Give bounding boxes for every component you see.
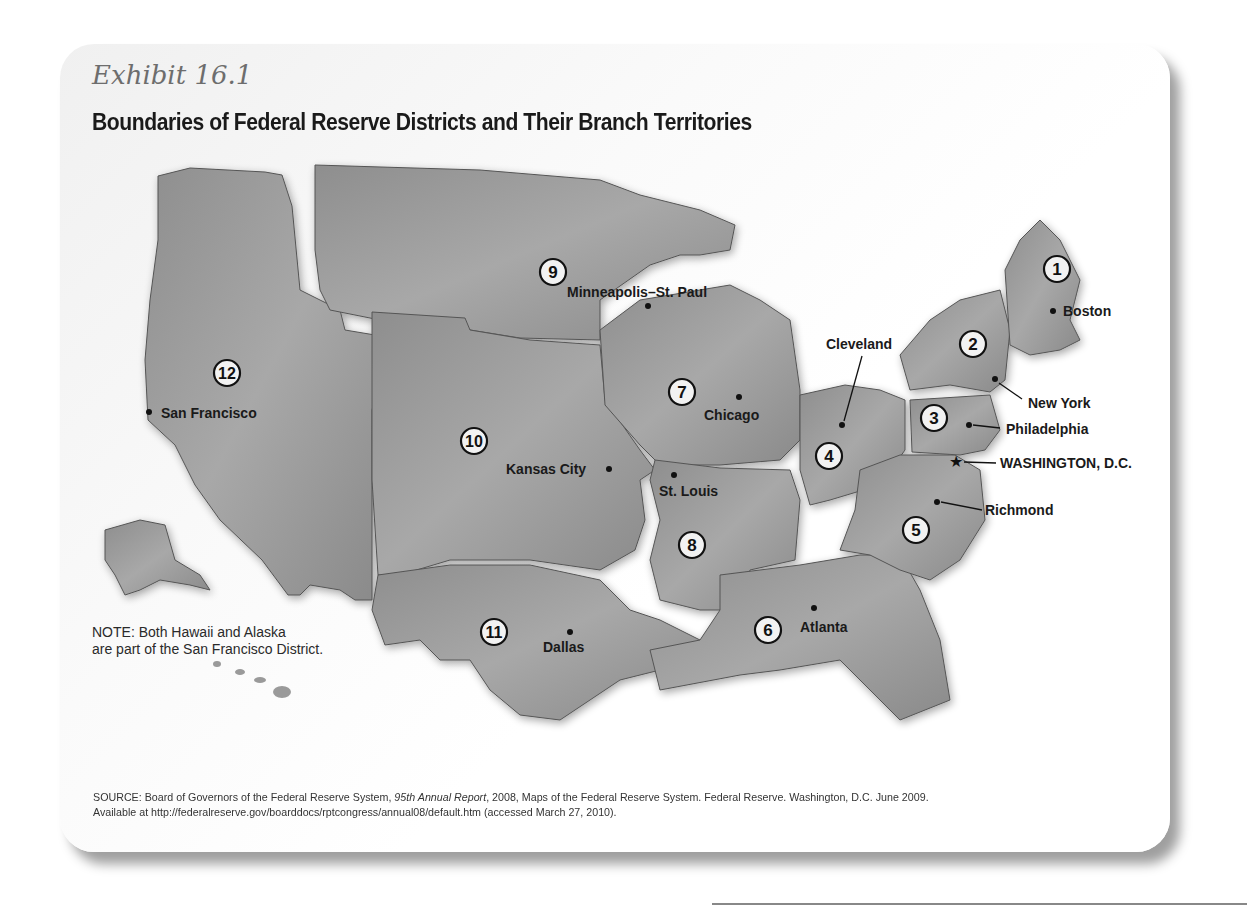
district-10-number: 10 [465,433,483,450]
note-line-2: are part of the San Francisco District. [92,641,323,658]
district-3-number: 3 [929,409,938,428]
label-richmond: Richmond [985,502,1053,518]
district-4-number: 4 [824,447,834,466]
district-1-number: 1 [1052,260,1061,279]
page-rule [712,903,1247,905]
alaska-region [105,520,210,595]
label-atlanta: Atlanta [800,619,848,635]
label-dallas: Dallas [543,639,584,655]
district-11-region [372,565,700,720]
label-minneapolis-st-paul: Minneapolis–St. Paul [567,284,707,300]
atlanta-dot [811,605,817,611]
label-san-francisco: San Francisco [161,405,257,421]
capital-star-icon: ★ [949,453,963,470]
new-york-dot [992,376,998,382]
label-new-york: New York [1028,395,1091,411]
district-6-number: 6 [763,621,772,640]
district-11-number: 11 [486,624,503,641]
san-francisco-dot [146,409,152,415]
minneapolis-dot [645,303,651,309]
hawaii-region [213,661,291,698]
label-kansas-city: Kansas City [506,461,586,477]
district-7-number: 7 [677,383,686,402]
dallas-dot [567,629,573,635]
district-8-number: 8 [687,536,696,555]
district-2-number: 2 [968,335,977,354]
cleveland-dot [839,422,845,428]
district-1-region [1005,220,1080,355]
label-boston: Boston [1063,303,1111,319]
federal-reserve-map: 1 2 3 4 5 6 7 8 9 10 11 12 ★ Boston [0,0,1247,907]
source-url-line: Available at http://federalreserve.gov/b… [93,805,929,820]
label-cleveland: Cleveland [826,336,892,352]
philadelphia-dot [966,422,972,428]
label-philadelphia: Philadelphia [1006,421,1089,437]
note-text: NOTE: Both Hawaii and Alaska are part of… [92,624,323,658]
label-chicago: Chicago [704,407,759,423]
source-citation: SOURCE: Board of Governors of the Federa… [93,790,929,820]
note-line-1: NOTE: Both Hawaii and Alaska [92,624,323,641]
district-12-number: 12 [218,365,236,382]
label-washington-dc: WASHINGTON, D.C. [1000,455,1132,471]
district-9-number: 9 [548,263,557,282]
label-st-louis: St. Louis [659,483,718,499]
richmond-dot [934,499,940,505]
st-louis-dot [671,472,677,478]
kansas-city-dot [606,466,612,472]
district-5-number: 5 [911,521,920,540]
boston-dot [1050,308,1056,314]
chicago-dot [736,394,742,400]
